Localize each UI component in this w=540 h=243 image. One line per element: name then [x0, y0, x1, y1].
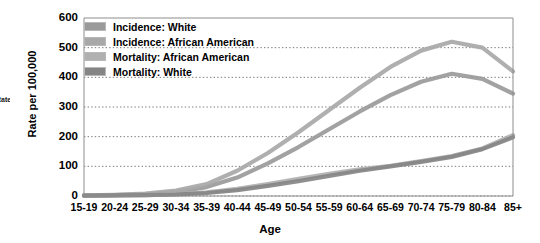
- legend-item: Incidence: African American: [84, 35, 254, 48]
- legend-label: Incidence: White: [113, 21, 196, 33]
- x-tick-label: 85+: [493, 201, 533, 213]
- y-tick-label: 200: [36, 130, 78, 142]
- legend-swatch-icon: [84, 37, 106, 46]
- series-line-2: [84, 135, 513, 196]
- legend-label: Incidence: African American: [113, 36, 254, 48]
- legend-swatch-icon: [84, 52, 106, 61]
- legend-item: Mortality: White: [84, 65, 254, 78]
- legend-swatch-icon: [84, 67, 106, 76]
- chart-container: Rate Rate per 100,000 010020030040050060…: [0, 0, 540, 243]
- y-tick-label: 500: [36, 41, 78, 53]
- y-tick-label: 100: [36, 159, 78, 171]
- legend-swatch-icon: [84, 22, 106, 31]
- legend-label: Mortality: African American: [113, 51, 249, 63]
- y-tick-label: 300: [36, 100, 78, 112]
- y-tick-label: 600: [36, 11, 78, 23]
- legend-label: Mortality: White: [113, 66, 192, 78]
- legend-item: Incidence: White: [84, 20, 254, 33]
- legend-item: Mortality: African American: [84, 50, 254, 63]
- y-tick-label: 0: [36, 189, 78, 201]
- x-axis-label: Age: [0, 223, 540, 235]
- chart-legend: Incidence: WhiteIncidence: African Ameri…: [84, 20, 254, 78]
- y-tick-label: 400: [36, 70, 78, 82]
